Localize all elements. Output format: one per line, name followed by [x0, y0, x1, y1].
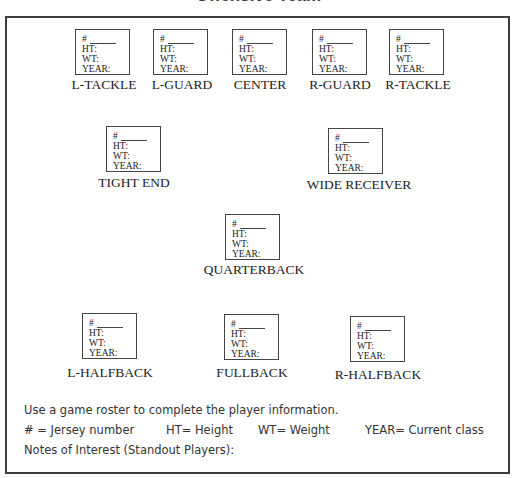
weight-field[interactable]: WT: [319, 54, 366, 64]
position-label-r-halfback: R-HALFBACK [335, 367, 421, 383]
jersey-number-label: # [396, 34, 401, 44]
player-card-r-tackle[interactable]: #HT:WT:YEAR: [389, 29, 444, 75]
player-card-quarterback[interactable]: #HT:WT:YEAR: [225, 214, 280, 260]
year-field[interactable]: YEAR: [160, 64, 207, 74]
legend-item: HT= Height [166, 423, 233, 437]
height-field[interactable]: HT: [319, 44, 366, 54]
year-field[interactable]: YEAR: [231, 349, 278, 359]
height-field[interactable]: HT: [357, 331, 404, 341]
position-label-fullback: FULLBACK [216, 365, 287, 381]
height-field[interactable]: HT: [239, 44, 286, 54]
position-label-l-guard: L-GUARD [152, 77, 213, 93]
position-label-center: CENTER [234, 77, 287, 93]
jersey-number-label: # [231, 319, 236, 329]
year-field[interactable]: YEAR: [335, 163, 382, 173]
player-card-l-halfback[interactable]: #HT:WT:YEAR: [82, 313, 137, 359]
page-title: Offensive Team [0, 0, 517, 6]
height-field[interactable]: HT: [335, 143, 382, 153]
player-card-r-halfback[interactable]: #HT:WT:YEAR: [350, 316, 405, 362]
year-field[interactable]: YEAR: [113, 161, 160, 171]
weight-field[interactable]: WT: [231, 339, 278, 349]
year-field[interactable]: YEAR: [319, 64, 366, 74]
weight-field[interactable]: WT: [160, 54, 207, 64]
jersey-number-blank[interactable] [239, 322, 265, 329]
jersey-number-blank[interactable] [240, 222, 266, 229]
jersey-number-blank[interactable] [97, 321, 123, 328]
instructions-text: Use a game roster to complete the player… [24, 403, 339, 417]
jersey-number-blank[interactable] [121, 134, 147, 141]
jersey-number-label: # [232, 219, 237, 229]
year-field[interactable]: YEAR: [396, 64, 443, 74]
position-label-quarterback: QUARTERBACK [204, 262, 304, 278]
legend-item: WT= Weight [258, 423, 330, 437]
jersey-number-label: # [160, 34, 165, 44]
weight-field[interactable]: WT: [239, 54, 286, 64]
weight-field[interactable]: WT: [113, 151, 160, 161]
weight-field[interactable]: WT: [396, 54, 443, 64]
height-field[interactable]: HT: [231, 329, 278, 339]
position-label-l-halfback: L-HALFBACK [67, 365, 153, 381]
jersey-number-label: # [319, 34, 324, 44]
legend-item: YEAR= Current class [365, 423, 484, 437]
jersey-number-label: # [82, 34, 87, 44]
legend-item: # = Jersey number [24, 423, 134, 437]
notes-of-interest-label: Notes of Interest (Standout Players): [24, 443, 234, 457]
height-field[interactable]: HT: [396, 44, 443, 54]
player-card-wide-receiver[interactable]: #HT:WT:YEAR: [328, 128, 383, 174]
weight-field[interactable]: WT: [89, 338, 136, 348]
jersey-number-blank[interactable] [90, 37, 116, 44]
position-label-r-tackle: R-TACKLE [385, 77, 451, 93]
jersey-number-blank[interactable] [168, 37, 194, 44]
year-field[interactable]: YEAR: [82, 64, 129, 74]
weight-field[interactable]: WT: [335, 153, 382, 163]
jersey-number-label: # [89, 318, 94, 328]
player-card-tight-end[interactable]: #HT:WT:YEAR: [106, 126, 161, 172]
height-field[interactable]: HT: [89, 328, 136, 338]
player-card-l-tackle[interactable]: #HT:WT:YEAR: [75, 29, 130, 75]
player-card-fullback[interactable]: #HT:WT:YEAR: [224, 314, 279, 360]
jersey-number-blank[interactable] [365, 324, 391, 331]
weight-field[interactable]: WT: [357, 341, 404, 351]
player-card-l-guard[interactable]: #HT:WT:YEAR: [153, 29, 208, 75]
player-card-center[interactable]: #HT:WT:YEAR: [232, 29, 287, 75]
weight-field[interactable]: WT: [82, 54, 129, 64]
year-field[interactable]: YEAR: [89, 348, 136, 358]
jersey-number-label: # [357, 321, 362, 331]
jersey-number-blank[interactable] [247, 37, 273, 44]
position-label-l-tackle: L-TACKLE [72, 77, 137, 93]
jersey-number-label: # [113, 131, 118, 141]
height-field[interactable]: HT: [82, 44, 129, 54]
year-field[interactable]: YEAR: [357, 351, 404, 361]
jersey-number-blank[interactable] [327, 37, 353, 44]
year-field[interactable]: YEAR: [232, 249, 279, 259]
weight-field[interactable]: WT: [232, 239, 279, 249]
height-field[interactable]: HT: [232, 229, 279, 239]
jersey-number-blank[interactable] [343, 136, 369, 143]
height-field[interactable]: HT: [113, 141, 160, 151]
jersey-number-label: # [335, 133, 340, 143]
height-field[interactable]: HT: [160, 44, 207, 54]
position-label-r-guard: R-GUARD [309, 77, 371, 93]
year-field[interactable]: YEAR: [239, 64, 286, 74]
position-label-wide-receiver: WIDE RECEIVER [307, 177, 412, 193]
jersey-number-label: # [239, 34, 244, 44]
position-label-tight-end: TIGHT END [98, 175, 169, 191]
jersey-number-blank[interactable] [404, 37, 430, 44]
player-card-r-guard[interactable]: #HT:WT:YEAR: [312, 29, 367, 75]
